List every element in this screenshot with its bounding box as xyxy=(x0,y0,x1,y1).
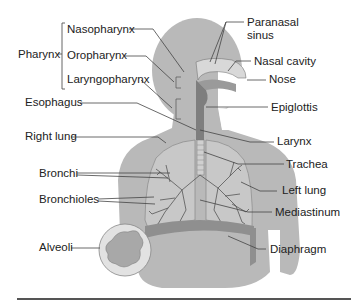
label-oropharynx: Oropharynx xyxy=(67,49,127,62)
label-bronchi: Bronchi xyxy=(39,167,78,180)
label-bronchioles: Bronchioles xyxy=(39,193,99,206)
label-mediastinum: Mediastinum xyxy=(275,206,340,219)
label-nose: Nose xyxy=(269,73,296,86)
label-pharynx: Pharynx xyxy=(18,48,60,61)
label-nasopharynx: Nasopharynx xyxy=(67,23,135,36)
alveoli-inset xyxy=(99,224,151,276)
label-laryngopharynx: Laryngopharynx xyxy=(67,73,149,86)
label-trachea: Trachea xyxy=(286,158,328,171)
label-esophagus: Esophagus xyxy=(25,96,83,109)
label-paranasal-line2: sinus xyxy=(247,29,299,42)
anatomy-illustration xyxy=(0,0,351,305)
label-left-lung: Left lung xyxy=(282,184,326,197)
label-paranasal-sinus: Paranasal sinus xyxy=(247,16,299,42)
label-diaphragm: Diaphragm xyxy=(270,243,326,256)
label-alveoli: Alveoli xyxy=(39,241,73,254)
label-nasal-cavity: Nasal cavity xyxy=(254,55,316,68)
bottom-divider xyxy=(17,298,351,300)
label-paranasal-line1: Paranasal xyxy=(247,16,299,29)
respiratory-diagram: Nasopharynx Oropharynx Laryngopharynx Ph… xyxy=(0,0,351,305)
label-epiglottis: Epiglottis xyxy=(271,101,318,114)
label-right-lung: Right lung xyxy=(25,130,77,143)
label-larynx: Larynx xyxy=(277,135,312,148)
